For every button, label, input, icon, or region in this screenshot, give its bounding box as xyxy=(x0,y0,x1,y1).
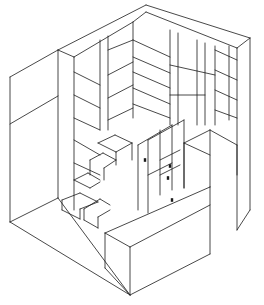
edge-line xyxy=(133,72,170,88)
edge-line xyxy=(215,90,237,100)
edge-line xyxy=(98,210,110,217)
edge-line xyxy=(105,268,130,295)
edge-line xyxy=(103,153,116,160)
edge-line xyxy=(133,104,170,118)
edge-line xyxy=(10,198,58,222)
edge-line xyxy=(10,50,58,77)
edge-line xyxy=(237,210,250,230)
edge-line xyxy=(10,222,130,295)
edge-line xyxy=(80,193,98,202)
edge-line xyxy=(130,254,210,295)
edge-line xyxy=(74,180,90,188)
edge-line xyxy=(58,50,74,57)
edge-line xyxy=(74,140,100,155)
edge-line xyxy=(160,150,180,160)
edge-line xyxy=(10,96,58,124)
edge-line xyxy=(210,130,237,145)
edge-line xyxy=(74,118,100,130)
edge-line xyxy=(138,125,172,145)
edge-line xyxy=(170,65,215,75)
edge-line xyxy=(74,72,100,85)
line-segments xyxy=(10,5,250,295)
edge-line xyxy=(133,12,146,22)
edge-line xyxy=(98,143,116,152)
edge-line xyxy=(74,173,88,180)
edge-line xyxy=(105,187,210,233)
edge-line xyxy=(104,160,116,168)
edge-line xyxy=(108,62,133,75)
edge-line xyxy=(100,199,110,205)
edge-line xyxy=(130,205,210,247)
edge-line xyxy=(146,12,237,48)
edge-line xyxy=(84,220,98,228)
edge-line xyxy=(215,70,237,80)
edge-line xyxy=(184,130,210,143)
edge-line xyxy=(74,22,133,57)
edge-line xyxy=(90,182,100,188)
edge-line xyxy=(133,40,170,57)
handle-icon xyxy=(169,164,171,168)
edge-line xyxy=(108,85,133,98)
handle-icon xyxy=(171,198,173,202)
handle-icon xyxy=(167,176,169,180)
edge-line xyxy=(115,135,132,143)
edge-line xyxy=(116,143,132,152)
edge-line xyxy=(146,5,250,38)
edge-line xyxy=(184,143,210,155)
edge-line xyxy=(105,233,130,247)
isometric-room-drawing xyxy=(0,0,264,305)
handle-icon xyxy=(144,158,146,162)
edge-line xyxy=(90,153,103,160)
edge-line xyxy=(108,40,133,50)
edge-line xyxy=(108,108,133,120)
edge-line xyxy=(133,57,170,73)
edge-line xyxy=(62,210,80,219)
edge-line xyxy=(215,50,237,60)
edge-line xyxy=(237,38,250,48)
edge-line xyxy=(215,110,237,118)
edge-line xyxy=(98,135,115,143)
edge-line xyxy=(58,198,130,295)
edge-line xyxy=(62,193,80,200)
edge-line xyxy=(84,199,100,209)
edge-line xyxy=(148,120,184,140)
edge-line xyxy=(133,88,170,104)
edge-line xyxy=(74,95,100,108)
